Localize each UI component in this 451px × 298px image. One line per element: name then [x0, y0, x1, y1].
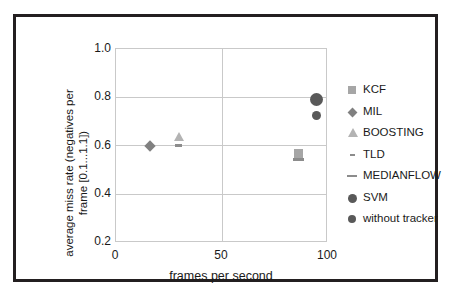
legend-item-medianflow[interactable]: MEDIANFLOW	[346, 166, 451, 188]
legend-item-tld[interactable]: TLD	[346, 145, 451, 167]
data-point-tld	[175, 144, 182, 147]
y-axis-title-line1: average miss rate (negatives per	[63, 89, 75, 256]
square-icon	[346, 80, 362, 102]
dash-short-icon	[346, 145, 362, 167]
gridline-y-0.8	[116, 97, 326, 98]
plot-area	[115, 48, 327, 242]
data-point-mil	[144, 140, 155, 151]
gridline-y-0.4	[116, 194, 326, 195]
data-point-svm	[310, 93, 323, 106]
triangle-icon	[346, 123, 362, 145]
data-point-medianflow	[293, 158, 304, 161]
legend-item-svm[interactable]: SVM	[346, 188, 451, 210]
legend-label: BOOSTING	[363, 125, 424, 139]
legend-label: SVM	[363, 190, 388, 204]
y-axis-title-line2: frame [0.1...1.1])	[77, 131, 89, 215]
gridline-x-50	[222, 49, 223, 241]
legend-label: KCF	[363, 82, 386, 96]
y-axis-title: average miss rate (negatives per frame […	[62, 73, 90, 273]
legend-item-without-tracker[interactable]: without tracker	[346, 209, 451, 231]
data-point-without-tracker	[312, 111, 321, 120]
diamond-icon	[346, 102, 362, 124]
y-axis-title-wrap: average miss rate (negatives per frame […	[40, 37, 74, 247]
y-tick-label: 1.0	[77, 42, 111, 54]
legend: KCF MIL BOOSTING TLD	[346, 80, 451, 231]
x-tick-label: 0	[95, 248, 135, 262]
legend-label: MEDIANFLOW	[363, 168, 441, 182]
data-point-kcf	[294, 149, 303, 158]
x-tick-label: 100	[307, 248, 347, 262]
data-point-boosting	[174, 132, 184, 141]
legend-label: TLD	[363, 147, 385, 161]
legend-label: MIL	[363, 104, 382, 118]
x-axis-title: frames per second	[115, 269, 327, 283]
legend-label: without tracker	[363, 211, 438, 225]
figure-border: 1.0 0.8 0.6 0.4 0.2 0 50 100 frames per …	[13, 14, 438, 282]
x-tick-label: 50	[201, 248, 241, 262]
circle-small-icon	[346, 209, 362, 231]
legend-item-mil[interactable]: MIL	[346, 102, 451, 124]
circle-large-icon	[346, 188, 362, 210]
legend-item-boosting[interactable]: BOOSTING	[346, 123, 451, 145]
legend-item-kcf[interactable]: KCF	[346, 80, 451, 102]
dash-long-icon	[346, 166, 362, 188]
chart-page: 1.0 0.8 0.6 0.4 0.2 0 50 100 frames per …	[0, 0, 451, 298]
